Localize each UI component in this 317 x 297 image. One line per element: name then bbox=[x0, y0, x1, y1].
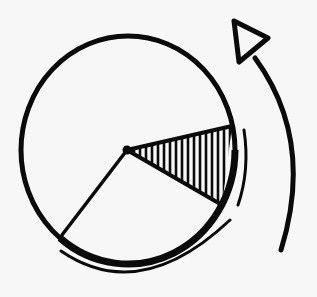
rotation-diagram bbox=[0, 0, 317, 297]
center-dot bbox=[123, 146, 132, 155]
